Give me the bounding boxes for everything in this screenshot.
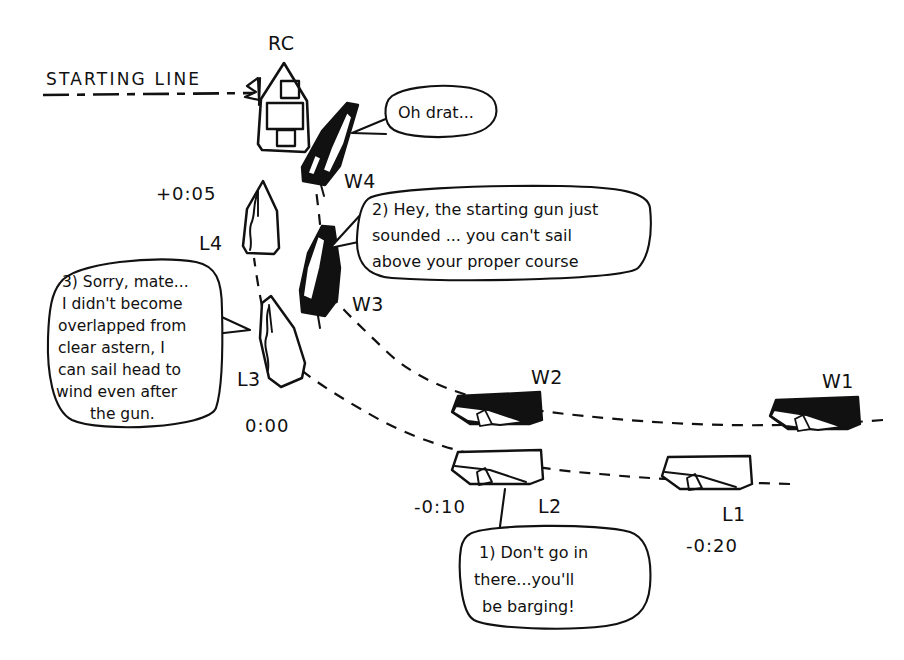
time-label-l4: +0:05 — [156, 183, 217, 204]
boat-label-l4: L4 — [199, 232, 223, 254]
bubble-1-line-2: there...you'll — [474, 570, 574, 589]
starting-line-label: STARTING LINE — [46, 69, 201, 89]
bubble-1-line-1: 1) Don't go in — [479, 543, 588, 562]
bubble-2-line-1: 2) Hey, the starting gun just — [372, 200, 598, 219]
time-label-l1: -0:20 — [686, 535, 738, 556]
time-label-l2: -0:10 — [414, 496, 466, 517]
bubble-4-line-1: Oh drat... — [398, 103, 474, 122]
boat-l3[interactable]: L3 0:00 — [237, 296, 305, 436]
diagram-canvas: STARTING LINE RC — [0, 0, 904, 660]
bubble-1-line-3: be barging! — [482, 597, 575, 616]
sailing-diagram-svg: STARTING LINE RC — [0, 0, 904, 660]
l3-hull — [260, 296, 305, 387]
w3-mast-line — [318, 316, 320, 328]
boat-label-w4: W4 — [344, 170, 376, 192]
bubble-4-tail — [352, 118, 388, 134]
boat-l4[interactable]: L4 +0:05 — [156, 181, 279, 254]
boat-w4[interactable]: W4 — [302, 103, 376, 196]
bubble-3-line-2: I didn't become — [62, 295, 183, 313]
bubble-3-line-4: clear astern, I — [58, 339, 165, 357]
rc-flag-icon — [245, 78, 259, 100]
bubble-3-line-7: the gun. — [90, 405, 155, 423]
boat-label-rc: RC — [268, 32, 295, 54]
speech-bubble-oh-drat[interactable]: Oh drat... — [352, 86, 496, 137]
boat-label-l2: L2 — [538, 495, 562, 517]
starting-line — [43, 93, 258, 95]
track-leeward-upper — [254, 258, 262, 306]
boat-w2[interactable]: W2 — [452, 366, 563, 426]
boat-w1[interactable]: W1 — [770, 370, 860, 431]
bubble-2-line-2: sounded ... you can't sail — [372, 226, 572, 245]
bubble-3-line-1: 3) Sorry, mate... — [62, 273, 189, 291]
speech-bubble-starting-gun[interactable]: 2) Hey, the starting gun just sounded ..… — [330, 186, 651, 280]
bubble-3-line-5: can sail head to — [58, 361, 181, 379]
bubble-3-line-3: overlapped from — [58, 317, 186, 335]
bubble-2-line-3: above your proper course — [372, 252, 579, 271]
rc-hull — [258, 63, 309, 152]
boat-l2[interactable]: L2 -0:10 — [414, 450, 562, 517]
boat-label-l3: L3 — [237, 368, 261, 390]
boat-label-w3: W3 — [352, 293, 384, 315]
boat-label-l1: L1 — [722, 503, 746, 525]
bubble-3-line-6: wind even after — [56, 383, 178, 401]
w4-mast-line — [321, 185, 324, 196]
starting-line-group: STARTING LINE — [43, 69, 258, 95]
boat-rc[interactable]: RC — [245, 32, 309, 152]
speech-bubble-sorry-mate[interactable]: 3) Sorry, mate... I didn't become overla… — [48, 259, 250, 427]
boat-l1[interactable]: L1 -0:20 — [662, 456, 752, 556]
l4-hull — [243, 181, 279, 254]
boat-label-w2: W2 — [531, 366, 563, 388]
boat-label-w1: W1 — [822, 370, 854, 392]
time-label-l3: 0:00 — [245, 415, 289, 436]
